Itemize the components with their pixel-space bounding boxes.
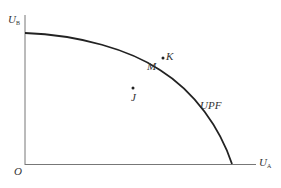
- point-j-dot: [132, 87, 135, 90]
- upf-label: UPF: [200, 100, 221, 111]
- y-axis-label-sub: B: [16, 20, 20, 26]
- point-m-label: M: [147, 61, 156, 72]
- x-axis-label-sub: A: [267, 163, 271, 169]
- x-axis-label: UA: [259, 157, 271, 169]
- origin-label: O: [14, 166, 22, 177]
- point-j-label: J: [131, 92, 136, 103]
- diagram-canvas: [0, 0, 281, 188]
- x-axis-label-main: U: [259, 156, 267, 168]
- point-k-label: K: [166, 51, 173, 62]
- point-k-dot: [162, 57, 165, 60]
- y-axis-label: UB: [8, 14, 20, 26]
- y-axis-label-main: U: [8, 13, 16, 25]
